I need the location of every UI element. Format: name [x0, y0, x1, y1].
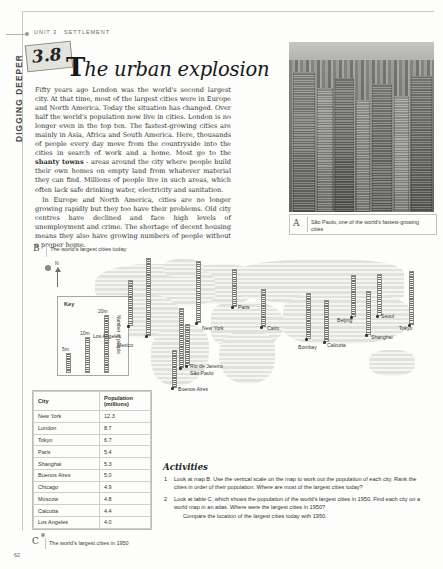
- city-dot-sao-paulo: [179, 367, 182, 370]
- city-bar-mexico: [146, 258, 151, 336]
- city-bar-shanghai: [366, 291, 371, 335]
- city-label-seoul: Seoul: [381, 313, 394, 319]
- city-bar-tokyo: [409, 271, 414, 325]
- city-label-shanghai: Shanghai: [371, 334, 393, 340]
- city-label-new-york: New York: [202, 325, 224, 331]
- cell-city: Moscow: [34, 493, 100, 505]
- activity-subtext: Compare the location of the largest citi…: [174, 512, 425, 520]
- column-header-population-line2: (millions): [104, 401, 129, 407]
- cell-population: 5.4: [100, 446, 151, 458]
- figure-b-caption-text: The world's largest cities today: [50, 246, 126, 252]
- cell-city: Tokyo: [34, 434, 100, 446]
- table-c-caption-divider: [45, 538, 46, 549]
- figure-a-caption-box: A São Paulo, one of the world's fastest-…: [289, 214, 437, 235]
- activity-number: 2: [164, 495, 167, 503]
- figure-a-caption-divider: [307, 217, 308, 232]
- table-row: Buenos Aires5.0: [34, 469, 151, 481]
- table-row: Chicago4.9: [34, 481, 151, 493]
- city-bar-beijing: [351, 275, 356, 317]
- table-row: Tokyo6.7: [34, 434, 151, 446]
- city-label-los-angeles: Los Angeles: [93, 333, 121, 339]
- page-top-rule: [22, 11, 434, 12]
- key-label-10m: 10m: [80, 331, 90, 336]
- table-c-caption: C The world's largest cities in 1950: [32, 538, 202, 550]
- photo-sao-paulo: [289, 42, 434, 212]
- city-bar-seoul: [377, 274, 382, 316]
- page-title-rest: he urban explosion: [84, 58, 269, 81]
- cell-city: Buenos Aires: [34, 469, 100, 481]
- city-bar-sao-paulo: [179, 308, 184, 368]
- city-label-sao-paulo: São Paulo: [190, 370, 214, 376]
- body-copy: Fifty years ago London was the world's s…: [35, 86, 231, 250]
- city-label-beijing: Beijing: [337, 317, 352, 323]
- city-dot-mexico: [145, 335, 148, 338]
- figure-a-label: A: [293, 218, 300, 228]
- figure-b-caption: B The world's largest cities today: [33, 244, 213, 256]
- cell-city: Calcutta: [34, 505, 100, 517]
- compass-north-label: N: [55, 260, 59, 266]
- city-dot-bombay: [305, 338, 308, 341]
- table-c-caption-bullet-icon: [41, 533, 45, 537]
- city-dot-buenos-aires: [171, 387, 174, 390]
- city-label-paris: Paris: [238, 304, 250, 310]
- cell-population: 5.0: [100, 469, 151, 481]
- city-label-calcutta: Calcutta: [327, 342, 346, 348]
- photo-haze-overlay: [289, 42, 434, 212]
- key-label-20m: 20m: [98, 309, 108, 314]
- landmass-australia: [369, 350, 415, 376]
- city-bar-bombay: [306, 293, 311, 339]
- city-bar-calcutta: [324, 300, 329, 342]
- key-bar-20m: [104, 315, 109, 373]
- table-header-row: City Population (millions): [34, 392, 151, 411]
- cell-city: New York: [34, 411, 100, 423]
- running-head-unit: UNIT 3: [34, 29, 57, 35]
- city-dot-rio-de-janeiro: [185, 365, 188, 368]
- running-head: UNIT 3SETTLEMENT: [34, 29, 110, 35]
- city-bar-los-angeles: [128, 280, 133, 326]
- cell-city: Los Angeles: [34, 517, 100, 529]
- cell-population: 4.8: [100, 493, 151, 505]
- compass-disc: [45, 265, 51, 271]
- cell-population: 5.3: [100, 458, 151, 470]
- activity-text: Look at map B. Use the vertical scale on…: [174, 476, 416, 490]
- key-label-5m: 5m: [62, 347, 69, 352]
- cell-population: 4.9: [100, 481, 151, 493]
- city-dot-calcutta: [323, 341, 326, 344]
- activity-text: Look at table C, which shows the populat…: [174, 496, 420, 510]
- city-label-rio-de-janeiro: Rio de Janeiro: [190, 363, 223, 369]
- landmass-africa-south: [219, 332, 275, 384]
- body-paragraph-1: Fifty years ago London was the world's s…: [35, 86, 231, 195]
- column-header-population: Population (millions): [100, 392, 151, 411]
- table-row: Moscow4.8: [34, 493, 151, 505]
- compass-needle: [57, 270, 58, 287]
- activities-title: Activities: [163, 462, 425, 472]
- city-label-cairo: Cairo: [267, 325, 279, 331]
- page-title-initial: T: [66, 52, 84, 82]
- figure-b-label: B: [33, 243, 40, 253]
- section-number: 3.8: [31, 44, 63, 67]
- table-c: City Population (millions) New York12.3L…: [32, 390, 152, 530]
- table-row: Los Angeles4.0: [34, 517, 151, 529]
- city-label-mexico: Mexico: [117, 342, 133, 348]
- cell-city: London: [34, 422, 100, 434]
- key-bar-10m: [85, 337, 90, 373]
- cell-city: Paris: [34, 446, 100, 458]
- figure-a-caption-text: São Paulo, one of the world's fastest-gr…: [311, 219, 431, 233]
- city-dot-seoul: [376, 315, 379, 318]
- map-key-title: Key: [64, 301, 74, 307]
- table-row: London8.7: [34, 422, 151, 434]
- compass-rose-icon: N: [45, 262, 61, 292]
- body-paragraph-2: In Europe and North America, cities are …: [35, 196, 231, 250]
- cell-population: 4.0: [100, 517, 151, 529]
- activities-box: Activities 1Look at map B. Use the verti…: [163, 462, 425, 524]
- cell-population: 4.4: [100, 505, 151, 517]
- side-tab-label: DIGGING DEEPER: [14, 46, 24, 150]
- world-map-chart: N Key 5m 10m 20m Number of people Los An…: [33, 258, 435, 406]
- city-dot-shanghai: [365, 334, 368, 337]
- cell-city: Chicago: [34, 481, 100, 493]
- city-dot-los-angeles: [127, 325, 130, 328]
- side-tab-digging-deeper: DIGGING DEEPER: [7, 47, 22, 159]
- table-c-caption-text: The world's largest cities in 1950: [49, 540, 129, 546]
- city-bar-paris: [232, 269, 237, 307]
- city-dot-new-york: [195, 322, 198, 325]
